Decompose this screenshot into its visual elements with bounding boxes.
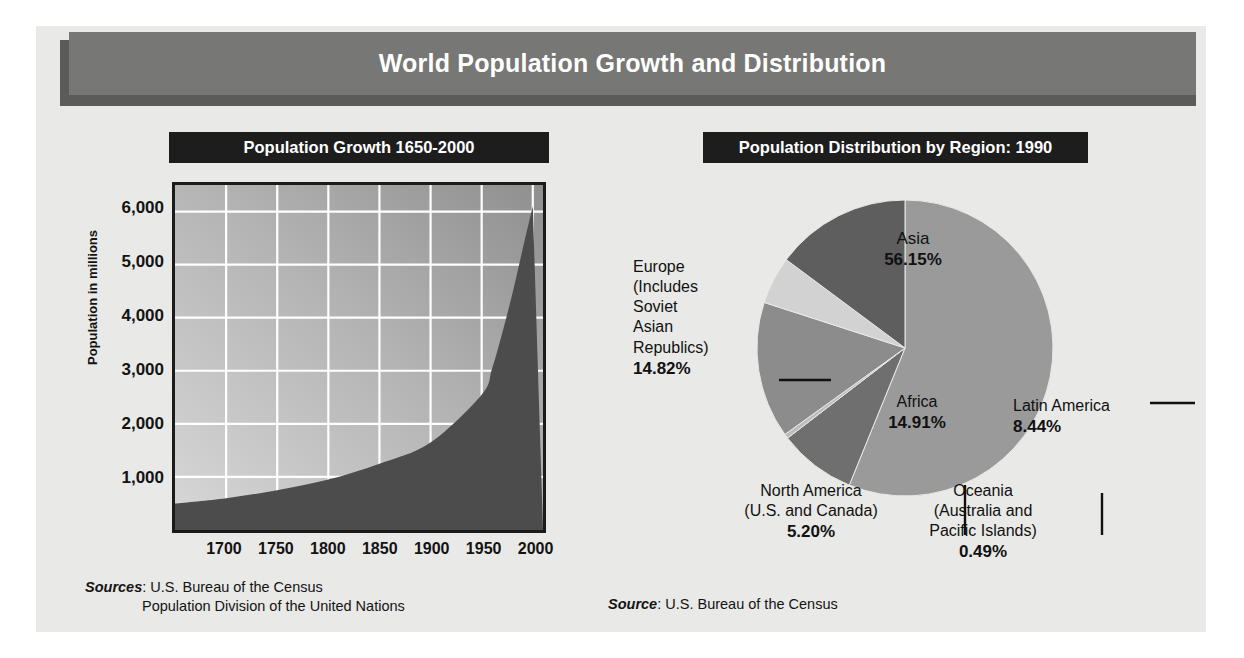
x-tick-label: 1850 [362, 540, 398, 558]
pie-label-europe-line2: (Includes [633, 277, 773, 297]
pie-label-oceania-line1: Oceania [908, 481, 1058, 501]
pie-label-europe-value: 14.82% [633, 359, 691, 378]
pie-label-europe: Europe (Includes Soviet Asian Republics)… [633, 257, 773, 379]
x-tick-label: 2000 [518, 540, 554, 558]
left-chart-title: Population Growth 1650-2000 [243, 138, 474, 157]
x-axis-ticks: 1700175018001850190019502000 [172, 540, 546, 564]
source-text: : U.S. Bureau of the Census [657, 596, 838, 612]
pie-label-asia: Asia 56.15% [843, 228, 983, 271]
pie-label-europe-line1: Europe [633, 257, 773, 277]
y-tick-label: 2,000 [98, 414, 164, 434]
pie-label-africa-value: 14.91% [888, 413, 946, 432]
source-line-1: : U.S. Bureau of the Census [142, 579, 323, 595]
pie-label-north-america-line2: (U.S. and Canada) [716, 501, 906, 521]
left-sources: Sources: U.S. Bureau of the Census Popul… [85, 578, 405, 616]
y-tick-label: 6,000 [98, 198, 164, 218]
y-tick-label: 1,000 [98, 468, 164, 488]
y-tick-label: 3,000 [98, 360, 164, 380]
pie-label-oceania-value: 0.49% [959, 542, 1007, 561]
pie-label-europe-line5: Republics) [633, 338, 773, 358]
pie-label-north-america-value: 5.20% [787, 522, 835, 541]
pie-label-oceania-line2: (Australia and [908, 501, 1058, 521]
pie-label-europe-line4: Asian [633, 317, 773, 337]
population-growth-area-chart [172, 182, 546, 533]
x-tick-label: 1950 [466, 540, 502, 558]
title-bar: World Population Growth and Distribution [69, 32, 1196, 95]
pie-label-africa: Africa 14.91% [862, 392, 972, 434]
pie-label-oceania: Oceania (Australia and Pacific Islands) … [908, 481, 1058, 563]
pie-label-north-america-line1: North America [716, 481, 906, 501]
right-source: Source: U.S. Bureau of the Census [608, 595, 838, 614]
right-chart-header: Population Distribution by Region: 1990 [703, 132, 1088, 163]
y-tick-label: 5,000 [98, 252, 164, 272]
pie-label-europe-line3: Soviet [633, 297, 773, 317]
pie-label-latin-america-name: Latin America [1013, 396, 1183, 416]
pie-label-asia-name: Asia [843, 228, 983, 249]
sources-label: Sources [85, 579, 142, 595]
y-axis-title: Population in millions [85, 198, 100, 398]
y-tick-label: 4,000 [98, 306, 164, 326]
left-chart-header: Population Growth 1650-2000 [169, 132, 549, 163]
right-chart-title: Population Distribution by Region: 1990 [739, 138, 1053, 157]
pie-label-latin-america: Latin America 8.44% [1013, 396, 1183, 438]
pie-label-north-america: North America (U.S. and Canada) 5.20% [716, 481, 906, 543]
x-tick-label: 1700 [206, 540, 242, 558]
pie-label-asia-value: 56.15% [884, 250, 942, 269]
source-label: Source [608, 596, 657, 612]
pie-label-africa-name: Africa [862, 392, 972, 412]
pie-label-latin-america-value: 8.44% [1013, 417, 1061, 436]
x-tick-label: 1750 [258, 540, 294, 558]
source-line-2: Population Division of the United Nation… [85, 597, 405, 616]
pie-label-oceania-line3: Pacific Islands) [908, 521, 1058, 541]
x-tick-label: 1800 [310, 540, 346, 558]
page-title: World Population Growth and Distribution [379, 49, 887, 78]
x-tick-label: 1900 [414, 540, 450, 558]
area-chart-canvas [175, 185, 543, 530]
